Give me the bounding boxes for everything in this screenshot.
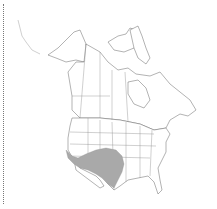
alaska	[48, 30, 88, 62]
north-america-map	[0, 0, 217, 209]
distribution-map: North America	[0, 0, 217, 209]
aleutian-islands	[18, 20, 40, 54]
